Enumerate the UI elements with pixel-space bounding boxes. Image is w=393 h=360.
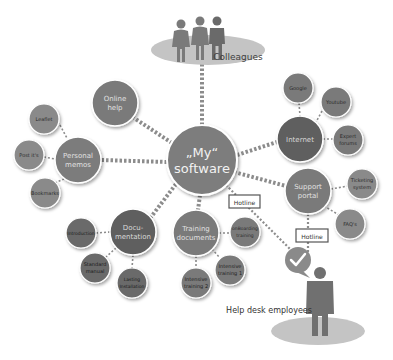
introduction-label: Introduction	[67, 231, 94, 236]
training-documents-line1: Training	[181, 225, 210, 233]
lasting-installation-line1: Lasting	[124, 277, 140, 282]
intensive-1-line2: training 1	[218, 270, 242, 277]
bookmarks-label: Bookmarks	[31, 190, 59, 196]
node-training-documents[interactable]	[173, 210, 219, 256]
faqs-label: FAQ's	[343, 221, 357, 227]
hotline-box-2[interactable]: Hotline	[296, 229, 328, 242]
support-portal-line1: Support	[294, 183, 322, 191]
node-personal-memos[interactable]	[55, 137, 101, 183]
central-node-my-software[interactable]	[167, 125, 237, 195]
connector-personal-memos	[101, 160, 167, 162]
expert-forums-line2: forums	[339, 140, 357, 146]
hotline-box-1[interactable]: Hotline	[229, 195, 260, 208]
node-lasting-installation[interactable]	[117, 268, 147, 298]
central-node-line2: software	[174, 161, 230, 176]
colleagues-label: Colleagues	[213, 52, 263, 62]
standard-manual-line1: Standard	[84, 261, 107, 267]
hotline-2-label: Hotline	[301, 233, 323, 240]
google-label: Google	[289, 85, 307, 92]
connector-internet	[237, 142, 277, 155]
expert-forums-line1: Expert	[340, 133, 356, 140]
ticketing-line2: system	[353, 184, 371, 191]
checkmark-bubble-icon	[285, 247, 311, 278]
documentation-line1: Docu-	[123, 224, 144, 232]
central-node-line1: „My“	[186, 145, 218, 160]
node-online-help[interactable]	[92, 80, 138, 126]
colleagues-group: Colleagues	[151, 17, 265, 66]
connector-documentation	[151, 184, 176, 217]
intensive-1-line1: Intensive	[219, 263, 242, 269]
onboarding-line1: onBoarding	[232, 226, 258, 231]
node-support-portal[interactable]	[285, 168, 331, 214]
lasting-installation-line2: Installation	[120, 284, 145, 289]
connector-training	[198, 195, 200, 210]
online-help-line1: Online	[104, 95, 127, 103]
standard-manual-line2: manual	[86, 268, 105, 274]
help-desk-label: Help desk employees	[226, 306, 312, 315]
node-onboarding-training[interactable]	[230, 217, 260, 247]
hotline-1-label: Hotline	[234, 199, 256, 206]
node-documentation[interactable]	[110, 209, 156, 255]
connector-online-help	[134, 118, 172, 143]
online-help-line2: help	[107, 104, 123, 112]
personal-memos-line2: memos	[65, 161, 91, 169]
training-documents-line2: documents	[177, 234, 216, 242]
diagram-canvas: Colleagues „My“ software Online help Per…	[0, 0, 393, 360]
documentation-line2: mentation	[115, 233, 151, 241]
leaflet-label: Leaflet	[35, 116, 52, 122]
support-portal-line2: portal	[298, 192, 319, 200]
intensive-2-line2: training 2	[184, 283, 208, 290]
help-desk-group: Help desk employees	[226, 247, 365, 345]
ticketing-line1: Ticketing	[350, 177, 374, 184]
personal-memos-line1: Personal	[63, 152, 93, 160]
internet-label: Internet	[286, 136, 314, 144]
onboarding-line2: training	[236, 233, 254, 238]
post-its-label: Post it's	[19, 152, 39, 158]
intensive-2-line1: Intensive	[185, 276, 208, 282]
connector-support-portal	[234, 172, 286, 186]
youtube-label: Youtube	[325, 99, 346, 105]
